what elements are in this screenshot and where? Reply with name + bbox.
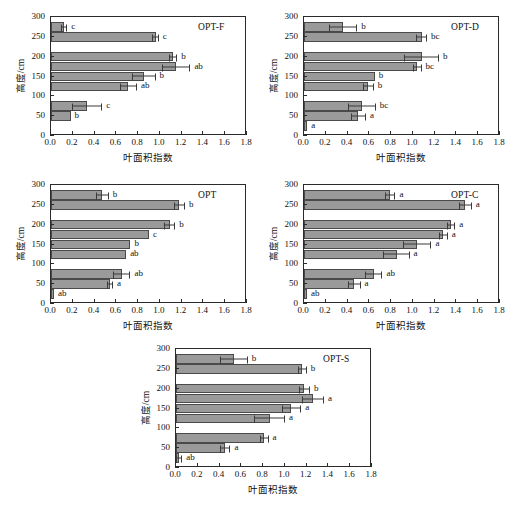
bar bbox=[304, 190, 390, 200]
bar bbox=[304, 82, 368, 92]
x-axis-tick-label: 0.2 bbox=[66, 137, 77, 147]
y-axis-tick-mark bbox=[303, 36, 307, 37]
error-bar bbox=[254, 418, 284, 419]
y-axis-tick-label: 50 bbox=[289, 278, 298, 288]
error-bar bbox=[403, 244, 431, 245]
x-axis-tick-mark bbox=[368, 131, 369, 135]
error-bar bbox=[169, 56, 178, 57]
error-bar bbox=[220, 358, 248, 359]
x-axis-tick-mark bbox=[371, 463, 372, 467]
bar-row: c bbox=[51, 230, 245, 240]
significance-letter: b bbox=[160, 72, 165, 81]
x-axis-tick-label: 1.2 bbox=[428, 305, 439, 315]
error-bar bbox=[282, 408, 302, 409]
error-bar bbox=[164, 224, 175, 225]
x-axis-label: 叶面积指数 bbox=[303, 150, 499, 164]
x-axis-tick-mark bbox=[50, 131, 51, 135]
y-axis-tick-label: 200 bbox=[32, 219, 46, 229]
x-axis-tick-mark bbox=[455, 299, 456, 303]
x-axis-tick-mark bbox=[306, 463, 307, 467]
error-bar bbox=[220, 448, 231, 449]
y-axis-tick-label: 150 bbox=[32, 71, 46, 81]
significance-letter: b bbox=[252, 354, 257, 363]
bar-series: bbcbbcbbbcaa bbox=[304, 17, 498, 134]
bar-row: b bbox=[304, 82, 498, 92]
y-axis-tick-mark bbox=[303, 135, 307, 136]
bar-row: ab bbox=[51, 269, 245, 279]
x-axis-tick-mark bbox=[327, 463, 328, 467]
bar-row: ab bbox=[176, 453, 370, 463]
bar-row: b bbox=[304, 52, 498, 62]
x-axis-tick-label: 1.0 bbox=[153, 305, 164, 315]
x-axis-tick-mark bbox=[246, 299, 247, 303]
significance-letter: a bbox=[289, 414, 293, 423]
bar-series: ccbabbabcb bbox=[51, 17, 245, 134]
bar-row: ab bbox=[51, 289, 245, 299]
bar bbox=[304, 62, 417, 72]
bar bbox=[51, 200, 179, 210]
x-axis-tick-label: 1.4 bbox=[450, 137, 461, 147]
x-axis-tick-mark bbox=[412, 299, 413, 303]
y-axis-tick-label: 200 bbox=[285, 219, 299, 229]
error-bar bbox=[162, 66, 190, 67]
x-axis-tick-mark bbox=[349, 463, 350, 467]
plot-area: bbbaaaaaab bbox=[175, 348, 371, 467]
x-axis-tick-mark bbox=[137, 131, 138, 135]
y-axis-tick-label: 150 bbox=[285, 239, 299, 249]
bar-row: b bbox=[176, 364, 370, 374]
bar-row: c bbox=[51, 101, 245, 111]
bar bbox=[304, 289, 307, 299]
bar bbox=[51, 72, 144, 82]
x-axis-tick-label: 0.0 bbox=[297, 137, 308, 147]
chart-panel-opt-s: bbbaaaaaabOPT-S0501001502002503000.00.20… bbox=[127, 338, 389, 508]
significance-letter: b bbox=[443, 52, 448, 61]
y-axis-tick-label: 100 bbox=[32, 258, 46, 268]
bar-row: b bbox=[51, 220, 245, 230]
bar bbox=[176, 394, 313, 404]
x-axis-tick-mark bbox=[94, 299, 95, 303]
significance-letter: a bbox=[234, 443, 238, 452]
x-axis-tick-mark bbox=[434, 299, 435, 303]
bar bbox=[304, 240, 417, 250]
y-axis-tick-mark bbox=[303, 184, 307, 185]
x-axis-tick-label: 0.4 bbox=[341, 137, 352, 147]
bar bbox=[51, 240, 130, 250]
x-axis-tick-label: 1.6 bbox=[472, 305, 483, 315]
bar-row: b bbox=[51, 200, 245, 210]
y-axis-tick-label: 50 bbox=[161, 442, 170, 452]
y-axis-tick-label: 250 bbox=[32, 199, 46, 209]
error-bar bbox=[439, 234, 448, 235]
y-axis-tick-label: 150 bbox=[32, 239, 46, 249]
significance-letter: a bbox=[370, 111, 374, 120]
x-axis-tick-label: 1.6 bbox=[472, 137, 483, 147]
bar-row: a bbox=[176, 433, 370, 443]
chart-panel-opt-f: ccbabbabcbOPT-F0501001502002503000.00.20… bbox=[0, 4, 257, 176]
bar bbox=[304, 269, 374, 279]
x-axis-tick-mark bbox=[325, 299, 326, 303]
error-bar bbox=[404, 56, 439, 57]
y-axis-tick-label: 200 bbox=[157, 383, 171, 393]
bar-row: b bbox=[51, 111, 245, 121]
significance-letter: ab bbox=[141, 82, 150, 91]
x-axis-tick-label: 0.6 bbox=[110, 305, 121, 315]
bar bbox=[304, 32, 422, 42]
panel-title: OPT bbox=[198, 190, 217, 200]
x-axis-tick-label: 1.4 bbox=[322, 469, 333, 479]
x-axis-tick-mark bbox=[175, 463, 176, 467]
significance-letter: b bbox=[134, 240, 139, 249]
bar-row: bc bbox=[304, 101, 498, 111]
significance-letter: ab bbox=[386, 270, 395, 279]
y-axis-tick-mark bbox=[175, 368, 179, 369]
bar bbox=[304, 200, 465, 210]
significance-letter: c bbox=[153, 230, 157, 239]
significance-letter: b bbox=[113, 190, 118, 199]
x-axis-tick-mark bbox=[50, 299, 51, 303]
y-axis-tick-label: 150 bbox=[285, 71, 299, 81]
panel-title: OPT-S bbox=[323, 354, 350, 364]
x-axis-tick-label: 1.0 bbox=[406, 137, 417, 147]
y-axis-tick-mark bbox=[303, 244, 307, 245]
y-axis-tick-label: 50 bbox=[36, 110, 45, 120]
x-axis-tick-label: 1.0 bbox=[278, 469, 289, 479]
error-bar bbox=[174, 204, 185, 205]
error-bar bbox=[132, 76, 156, 77]
